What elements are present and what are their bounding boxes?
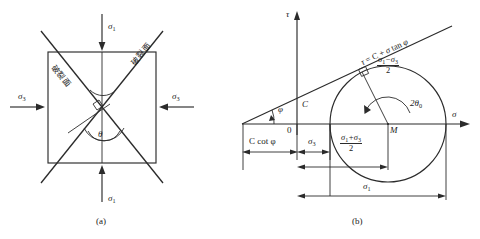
- top-load-arrow-head: [99, 42, 106, 51]
- caption-panel-a: (a): [96, 216, 106, 226]
- panel-a-drawing: [0, 0, 240, 239]
- label-sigma3-right: σ3: [172, 92, 180, 101]
- center-point-marker: [387, 123, 389, 125]
- dim-sigma1-arrow-right: [438, 193, 446, 198]
- bottom-load-arrow-head: [99, 165, 106, 174]
- radius-fraction-denominator: 2: [377, 66, 399, 75]
- theta-angle-arc-inner: [88, 131, 120, 141]
- center-fraction-numerator: σ1+σ3: [340, 134, 362, 144]
- caption-panel-b: (b): [352, 216, 363, 226]
- center-fraction-denominator: 2: [340, 144, 362, 153]
- two-theta-arc: [366, 97, 410, 113]
- label-sigma-axis: σ: [452, 110, 456, 119]
- radius-line-to-tangency: [362, 72, 388, 124]
- panel-b-mohr-circle: τ σ 0 C φ M 2θ0 C cot φ σ3 σ1: [240, 0, 480, 239]
- dim-center-arrow-right: [380, 164, 388, 169]
- label-origin: 0: [287, 126, 292, 135]
- figure-root: σ1 σ1 σ3 σ3 θ 破裂面 破裂面 (a): [0, 0, 480, 239]
- theta-reference-line: [68, 104, 110, 133]
- tau-axis-arrowhead: [294, 11, 300, 20]
- label-sigma1-dimension: σ1: [363, 182, 371, 191]
- panel-b-drawing: [240, 0, 480, 239]
- panel-a-failure-planes: σ1 σ1 σ3 σ3 θ 破裂面 破裂面 (a): [0, 0, 240, 239]
- label-center-fraction: σ1+σ3 2: [340, 134, 362, 154]
- label-center-point-m: M: [390, 126, 398, 135]
- dim-sigma3-arrow-left: [297, 149, 305, 154]
- failure-envelope-line: [242, 26, 452, 124]
- dim-sigma3-arrow-right: [322, 149, 330, 154]
- right-confining-arrow-head: [159, 104, 168, 111]
- dim-sigma1-arrow-left: [297, 193, 305, 198]
- two-theta-arrowhead: [364, 105, 371, 114]
- dim-center-arrow-left: [297, 164, 305, 169]
- label-tau-axis: τ: [286, 10, 289, 19]
- sigma-axis-arrowhead: [460, 121, 470, 128]
- label-theta-angle: θ: [98, 130, 102, 139]
- label-sigma3-dimension: σ3: [308, 137, 316, 146]
- label-two-theta-zero: 2θ0: [410, 99, 422, 108]
- label-sigma1-bottom: σ1: [108, 194, 116, 203]
- label-cohesion-c: C: [302, 100, 308, 109]
- label-friction-angle-phi: φ: [278, 105, 283, 114]
- label-c-cot-phi: C cot φ: [249, 137, 276, 146]
- label-sigma3-left: σ3: [18, 92, 26, 101]
- left-confining-arrow-head: [36, 104, 45, 111]
- label-sigma1-top: σ1: [108, 22, 116, 31]
